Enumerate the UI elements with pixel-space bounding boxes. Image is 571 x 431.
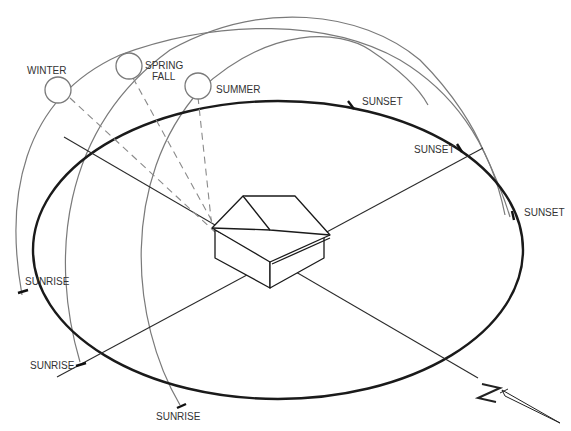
sunset-label-3: SUNSET bbox=[524, 207, 565, 218]
summer-label: SUMMER bbox=[216, 84, 260, 95]
spring-fall-sun-icon bbox=[116, 53, 142, 79]
summer-sun-icon bbox=[185, 73, 211, 99]
sunset-tick-winter bbox=[512, 211, 514, 220]
spring-label: SPRING bbox=[145, 60, 184, 71]
house-icon bbox=[212, 196, 330, 288]
sunrise-tick-equinox bbox=[76, 363, 86, 366]
sunrise-label-1: SUNRISE bbox=[25, 276, 70, 287]
sunset-label-2: SUNSET bbox=[414, 144, 455, 155]
sunrise-label-3: SUNRISE bbox=[156, 411, 201, 422]
compass-north-icon bbox=[478, 384, 560, 423]
sunset-label-1: SUNSET bbox=[362, 96, 403, 107]
sun-path-diagram: WINTER SPRING FALL SUMMER SUNSET SUNSET … bbox=[0, 0, 571, 431]
fall-label: FALL bbox=[152, 71, 176, 82]
winter-label: WINTER bbox=[27, 65, 66, 76]
spring-fall-ray bbox=[133, 78, 218, 232]
sunrise-tick-summer bbox=[177, 404, 186, 408]
sunrise-label-2: SUNRISE bbox=[30, 360, 75, 371]
sunrise-tick-winter bbox=[18, 290, 28, 293]
winter-sun-icon bbox=[45, 77, 71, 103]
